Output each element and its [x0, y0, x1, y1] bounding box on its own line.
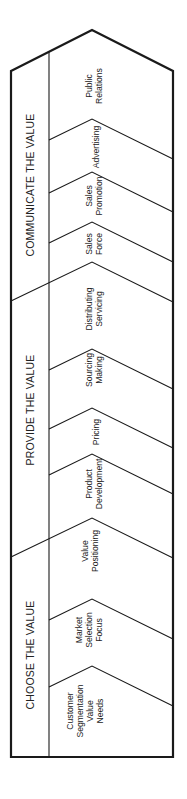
step-sales-promotion: SalesPromotion [84, 176, 104, 215]
svg-text:Advertising: Advertising [91, 126, 101, 169]
step-value-positioning: ValuePositioning [80, 530, 100, 572]
svg-text:SalesPromotion: SalesPromotion [84, 176, 104, 215]
svg-text:ValuePositioning: ValuePositioning [80, 530, 100, 572]
svg-text:CustomerSegmentationValueNeeds: CustomerSegmentationValueNeeds [65, 684, 105, 737]
step-distributing-servicing: DistributingServicing [84, 287, 104, 330]
step-divider [49, 408, 173, 448]
phase-title-choose: CHOOSE THE VALUE [24, 600, 36, 709]
step-customer-segmentation: CustomerSegmentationValueNeeds [65, 684, 105, 737]
svg-text:PublicRelations: PublicRelations [84, 68, 104, 104]
svg-text:Pricing: Pricing [91, 419, 101, 445]
step-divider [49, 119, 173, 159]
step-divider [49, 172, 173, 212]
svg-text:SourcingMaking: SourcingMaking [84, 353, 104, 387]
svg-text:SalesForce: SalesForce [84, 233, 104, 255]
step-pricing: Pricing [91, 419, 101, 445]
svg-text:MarketSelectionFocus: MarketSelectionFocus [74, 612, 104, 648]
step-divider [49, 222, 173, 262]
step-product-development: ProductDevelopment [84, 458, 104, 509]
step-advertising: Advertising [91, 126, 101, 169]
svg-text:DistributingServicing: DistributingServicing [84, 287, 104, 330]
phase-title-communicate: COMMUNICATE THE VALUE [24, 113, 36, 256]
value-delivery-diagram: COMMUNICATE THE VALUE PROVIDE THE VALUE … [0, 0, 187, 799]
step-sales-force: SalesForce [84, 233, 104, 255]
step-divider [49, 454, 173, 494]
svg-text:ProductDevelopment: ProductDevelopment [84, 458, 104, 509]
step-divider [49, 599, 173, 639]
step-market-selection-focus: MarketSelectionFocus [74, 612, 104, 648]
step-sourcing-making: SourcingMaking [84, 353, 104, 387]
step-divider [49, 349, 173, 389]
step-public-relations: PublicRelations [84, 68, 104, 104]
phase-title-provide: PROVIDE THE VALUE [24, 355, 36, 466]
